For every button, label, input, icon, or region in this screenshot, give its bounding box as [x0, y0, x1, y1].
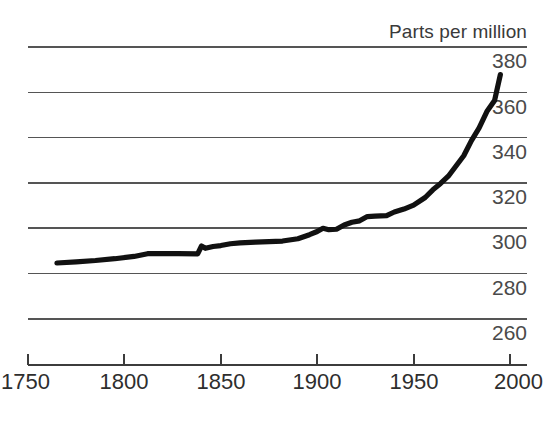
- x-tick-label-1850: 1850: [197, 369, 246, 394]
- y-tick-label-260: 260: [492, 321, 527, 344]
- x-tick-label-1900: 1900: [293, 369, 342, 394]
- chart-container: Parts per million 380360340320300280260 …: [0, 0, 553, 428]
- y-tick-label-380: 380: [492, 49, 527, 72]
- x-tick-label-1950: 1950: [390, 369, 439, 394]
- chart-background: [0, 0, 553, 428]
- y-tick-label-280: 280: [492, 276, 527, 299]
- y-tick-label-320: 320: [492, 185, 527, 208]
- y-tick-label-300: 300: [492, 230, 527, 253]
- x-tick-label-1750: 1750: [1, 369, 50, 394]
- axis-units-title: Parts per million: [389, 21, 527, 42]
- line-chart: Parts per million 380360340320300280260 …: [0, 0, 553, 428]
- x-tick-label-2000: 2000: [494, 369, 543, 394]
- y-tick-label-340: 340: [492, 140, 527, 163]
- x-tick-label-1800: 1800: [100, 369, 149, 394]
